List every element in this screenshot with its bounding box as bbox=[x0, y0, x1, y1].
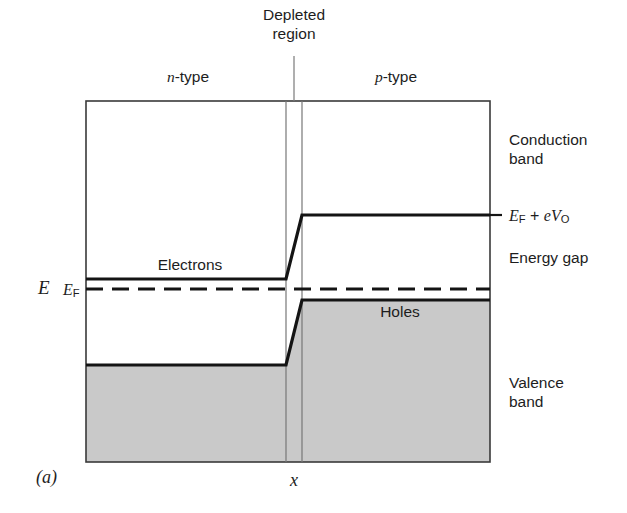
valence-band-label: Valence band bbox=[509, 374, 564, 412]
p-type-region-label: p-type bbox=[375, 68, 417, 87]
energy-axis-label: E bbox=[38, 277, 50, 299]
position-axis-label: x bbox=[290, 470, 298, 491]
fermi-plus-evo-E-sub: F bbox=[519, 213, 526, 225]
fermi-plus-evo-E: E bbox=[509, 207, 519, 224]
fermi-plus-evo-V-sub: O bbox=[561, 213, 570, 225]
p-type-suffix: -type bbox=[383, 68, 417, 85]
fermi-plus-evo-e: e bbox=[544, 207, 551, 224]
conduction-band-label-line1: Conduction bbox=[509, 131, 587, 148]
n-type-region-label: n-type bbox=[167, 68, 209, 87]
depleted-region-label-line2: region bbox=[272, 25, 315, 42]
fermi-plus-evo-label: EF + eVO bbox=[509, 206, 569, 227]
conduction-band-label: Conduction band bbox=[509, 131, 587, 169]
conduction-band-label-line2: band bbox=[509, 150, 543, 167]
valence-band-label-line2: band bbox=[509, 393, 543, 410]
n-type-italic: n bbox=[167, 68, 175, 85]
energy-gap-label: Energy gap bbox=[509, 249, 588, 268]
n-type-suffix: -type bbox=[175, 68, 209, 85]
fermi-level-label: EF bbox=[63, 281, 80, 299]
depleted-region-label: Depleted region bbox=[263, 6, 325, 44]
panel-label: (a) bbox=[36, 467, 57, 488]
fermi-level-label-E: E bbox=[63, 281, 73, 298]
fermi-plus-evo-V: V bbox=[551, 207, 561, 224]
holes-label: Holes bbox=[380, 303, 420, 322]
fermi-plus-evo-plus: + bbox=[526, 207, 544, 224]
fermi-level-label-sub: F bbox=[73, 287, 80, 299]
depleted-region-label-line1: Depleted bbox=[263, 6, 325, 23]
electrons-label: Electrons bbox=[158, 256, 223, 275]
valence-band-label-line1: Valence bbox=[509, 374, 564, 391]
p-type-italic: p bbox=[375, 68, 383, 85]
